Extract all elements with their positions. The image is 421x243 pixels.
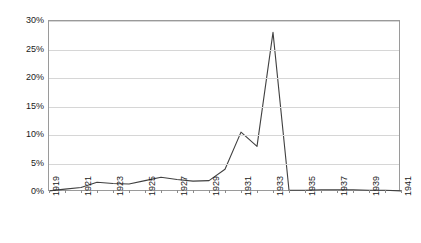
x-tick-label: 1923	[116, 176, 125, 196]
x-tick-label: 1929	[212, 176, 221, 196]
x-axis: 1919192119231925192719291931193319351937…	[0, 0, 421, 243]
x-tick-label: 1939	[372, 176, 381, 196]
x-tick-label: 1935	[308, 176, 317, 196]
x-tick-label: 1933	[276, 176, 285, 196]
x-tick-label: 1919	[52, 176, 61, 196]
x-tick-label: 1927	[180, 176, 189, 196]
line-chart: 0%5%10%15%20%25%30% 19191921192319251927…	[0, 0, 421, 243]
x-tick-label: 1931	[244, 176, 253, 196]
x-tick-label: 1937	[340, 176, 349, 196]
x-tick-label: 1925	[148, 176, 157, 196]
x-tick-label: 1921	[84, 176, 93, 196]
x-tick-label: 1941	[404, 176, 413, 196]
